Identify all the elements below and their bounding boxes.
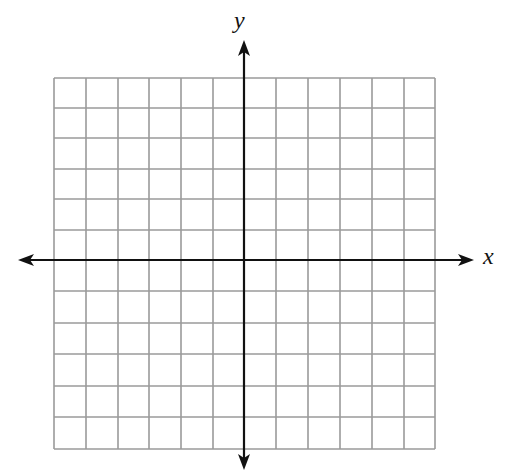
- coordinate-grid-svg: [0, 0, 511, 474]
- y-axis-label: y: [234, 8, 245, 32]
- x-axis-label: x: [483, 244, 494, 268]
- coordinate-plane: y x: [0, 0, 511, 474]
